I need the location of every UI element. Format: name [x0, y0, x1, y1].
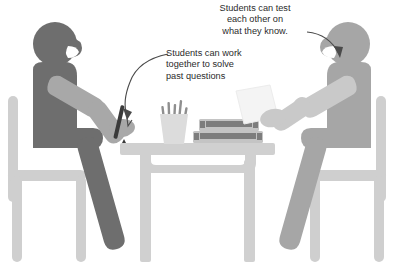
annotation-work-line-2: together to solve: [166, 59, 286, 70]
annotation-work-line-3: past questions: [166, 71, 286, 82]
table-leg-right: [244, 160, 255, 262]
cup: [160, 114, 188, 144]
annotation-work-together: Students can work together to solve past…: [166, 48, 286, 82]
annotation-test-line-3: what they know.: [196, 26, 314, 37]
table-leg-left: [140, 160, 151, 262]
annotation-test-line-1: Students can test: [196, 3, 314, 14]
annotation-work-line-1: Students can work: [166, 48, 286, 59]
annotation-test-each-other: Students can test each other on what the…: [196, 3, 314, 37]
illustration-canvas: Students can test each other on what the…: [0, 0, 405, 266]
annotation-test-line-2: each other on: [196, 14, 314, 25]
scene-illustration: [0, 0, 405, 266]
